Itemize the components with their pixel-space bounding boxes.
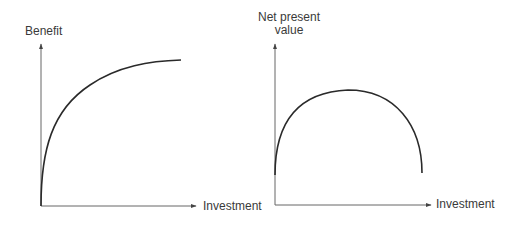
left-y-axis-label: Benefit [25, 25, 62, 38]
right-y-axis-label: Net present value [244, 11, 334, 37]
right-x-axis-label: Investment [436, 198, 495, 211]
right-chart [275, 44, 431, 205]
left-x-axis-label: Investment [203, 200, 262, 213]
benefit-curve [41, 60, 181, 206]
left-chart [41, 44, 196, 206]
right-y-axis-label-line2: value [244, 24, 334, 37]
npv-curve [275, 90, 422, 175]
